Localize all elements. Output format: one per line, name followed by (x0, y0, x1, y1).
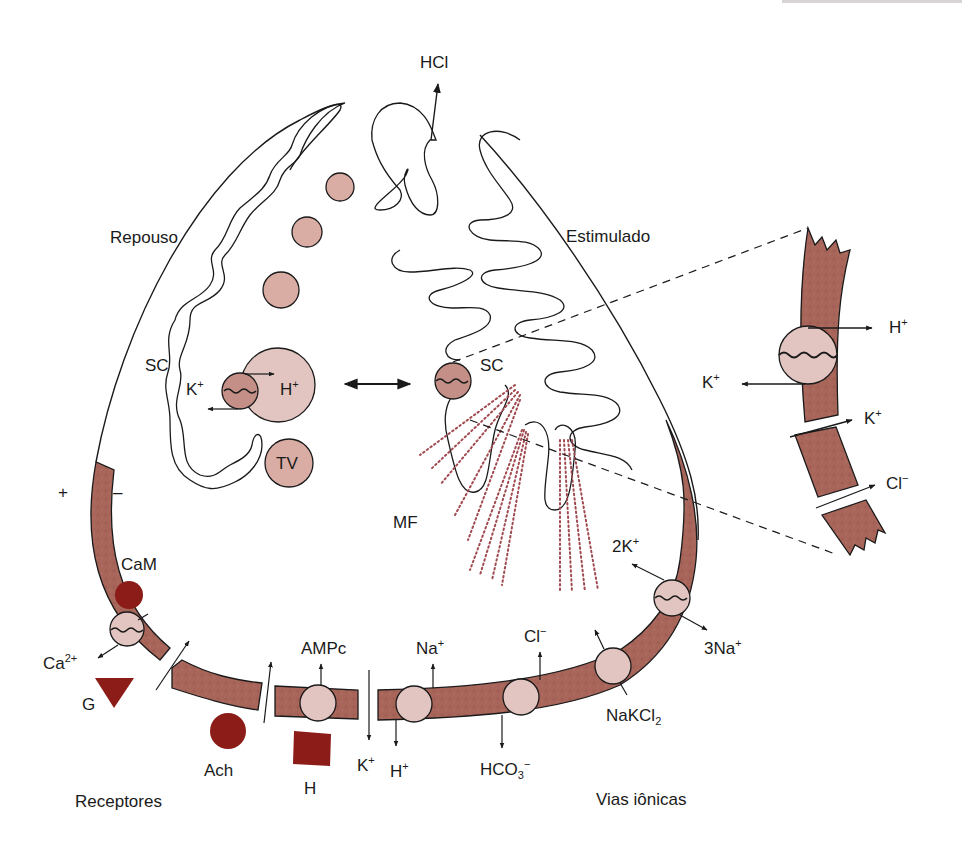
3na-label: 3Na+ (704, 640, 742, 657)
polarity-minus: – (113, 484, 122, 501)
ca-label: Ca2+ (43, 655, 77, 672)
h-out-label: H+ (390, 763, 409, 780)
hcl-label: HCl (420, 54, 448, 71)
parietal-cell-diagram (0, 0, 963, 851)
inset-k-label: K+ (702, 374, 720, 391)
microfilaments (420, 385, 598, 592)
ach-label: Ach (204, 762, 233, 779)
sc-stimulated-label: SC (480, 357, 504, 374)
inset-h-label: H+ (889, 319, 908, 336)
stimulated-canaliculus (372, 103, 632, 510)
ampc-label: AMPc (301, 640, 346, 657)
zoom-inset-membrane (795, 228, 885, 555)
resting-h-label: H+ (280, 381, 299, 398)
g-label: G (82, 696, 95, 713)
cl-hco3-exchanger (503, 679, 539, 715)
polarity-plus: + (58, 484, 68, 501)
cam-label: CaM (121, 556, 157, 573)
inset-k-channel-label: K+ (864, 410, 882, 427)
tv-label: TV (276, 455, 298, 472)
k-channel-label: K+ (357, 757, 375, 774)
nakcl2-cotransporter (595, 648, 631, 684)
cell-outline-right (480, 135, 698, 540)
2k-label: 2K+ (612, 538, 639, 555)
na-h-exchanger (396, 686, 432, 722)
resting-state-label: Repouso (110, 229, 178, 246)
zoom-guide-lines (453, 228, 838, 555)
resting-k-label: K+ (186, 381, 204, 398)
resting-canaliculus (166, 103, 345, 489)
h-receptor-ligand (293, 731, 331, 766)
h-label: H (304, 780, 316, 797)
ach-ligand (210, 713, 246, 749)
na-label: Na+ (416, 640, 444, 657)
sc-resting-label: SC (145, 357, 169, 374)
receptors-section-label: Receptores (75, 793, 162, 810)
cam-ligand (115, 581, 143, 609)
stimulated-state-label: Estimulado (566, 228, 650, 245)
cl-label: Cl− (524, 628, 547, 645)
hco3-label: HCO3− (480, 761, 530, 778)
nakcl2-label: NaKCl2 (606, 707, 661, 724)
inset-cl-channel-label: Cl− (886, 475, 909, 492)
ampc-pump (300, 685, 336, 721)
g-receptor-ligand (95, 678, 134, 708)
hcl-arrow (431, 84, 438, 140)
mf-label: MF (393, 514, 418, 531)
vesicles (263, 173, 354, 308)
ion-pathways-section-label: Vias iônicas (596, 791, 686, 808)
